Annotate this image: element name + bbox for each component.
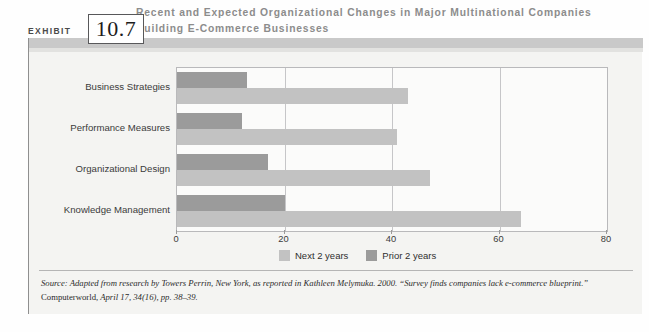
gridline: [500, 68, 501, 231]
x-axis-tick-label: 40: [386, 234, 396, 244]
chart-legend: Next 2 years Prior 2 years: [279, 250, 436, 261]
exhibit-label: EXHIBIT: [28, 26, 71, 36]
divider: [39, 270, 633, 271]
source-label: Source:: [41, 278, 68, 288]
source-text-1: Adapted from research by Towers Perrin, …: [68, 278, 588, 288]
bar-next-2-years: [177, 211, 521, 227]
bar-prior-2-years: [177, 113, 242, 129]
legend-label-next: Next 2 years: [295, 250, 348, 261]
chart-panel: Business StrategiesPerformance MeasuresO…: [28, 38, 642, 314]
legend-label-prior: Prior 2 years: [382, 250, 436, 261]
bar-next-2-years: [177, 129, 397, 145]
bar-prior-2-years: [177, 154, 268, 170]
exhibit-figure: EXHIBIT 10.7 Recent and Expected Organiz…: [0, 0, 649, 332]
source-note: Source: Adapted from research by Towers …: [41, 277, 629, 304]
bar-prior-2-years: [177, 195, 285, 211]
legend-item-next: Next 2 years: [279, 250, 348, 261]
source-journal: Computerworld: [41, 292, 96, 302]
category-label: Knowledge Management: [64, 204, 170, 215]
bar-prior-2-years: [177, 72, 247, 88]
x-axis-tick-label: 80: [601, 234, 611, 244]
panel-top-band-shadow: [29, 48, 643, 52]
bar-next-2-years: [177, 88, 408, 104]
source-text-2: , April 17, 34(16), pp. 38–39.: [96, 292, 198, 302]
category-label: Business Strategies: [85, 81, 170, 92]
x-axis-tick-label: 60: [493, 234, 503, 244]
category-label: Performance Measures: [70, 122, 170, 133]
legend-item-prior: Prior 2 years: [366, 250, 436, 261]
category-label: Organizational Design: [76, 163, 170, 174]
category-axis: Business StrategiesPerformance MeasuresO…: [29, 67, 170, 230]
page-title: Recent and Expected Organizational Chang…: [136, 5, 606, 36]
x-axis-tick-label: 0: [173, 234, 178, 244]
plot-area: [176, 67, 608, 232]
legend-swatch-next-icon: [279, 250, 290, 261]
bar-next-2-years: [177, 170, 430, 186]
x-axis-tick-label: 20: [278, 234, 288, 244]
exhibit-number-box: 10.7: [88, 14, 144, 44]
legend-swatch-prior-icon: [366, 250, 377, 261]
